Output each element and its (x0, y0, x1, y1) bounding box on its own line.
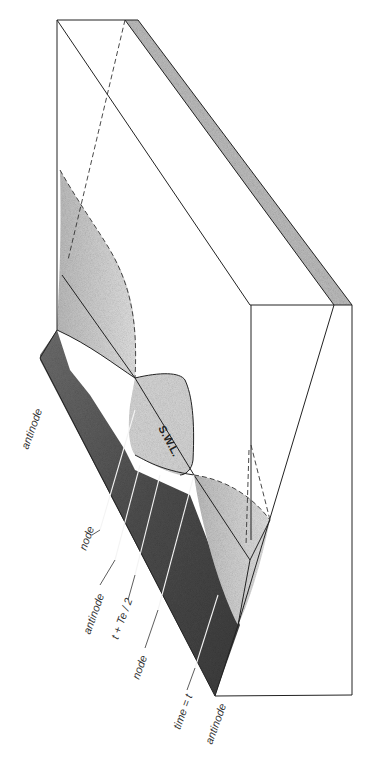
label-node-2: node (130, 654, 150, 681)
swl-lobe (129, 374, 194, 475)
label-antinode-bottom: antinode (203, 702, 229, 746)
label-node-1: node (77, 525, 97, 552)
standing-wave-block-diagram: S.W.L. antinode node antinode t + Te / 2… (0, 0, 367, 768)
label-antinode-mid: antinode (81, 592, 107, 636)
label-half-period: t + Te / 2 (109, 596, 135, 640)
label-antinode-top: antinode (19, 407, 45, 451)
label-time-t: time = t (171, 692, 195, 731)
side-strip-face (125, 20, 352, 305)
upper-wave-lobe (57, 170, 136, 378)
